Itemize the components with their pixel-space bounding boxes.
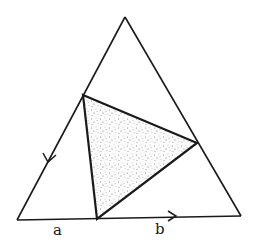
arrow-base-icon [168,211,176,221]
triangle-diagram [0,0,257,247]
label-a: a [53,223,62,238]
outer-triangle-base [17,216,241,220]
label-b: b [155,222,165,237]
outer-triangle-right-side [125,17,241,216]
inner-shaded-triangle [83,95,197,219]
